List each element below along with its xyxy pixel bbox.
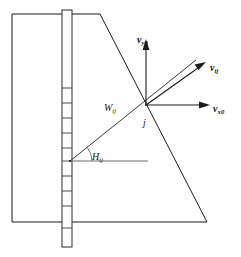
vector-vy0 (143, 39, 150, 105)
pile-column-body (62, 10, 72, 247)
label-vij-subscript: ij (214, 67, 218, 74)
label-angle: Hij (92, 147, 103, 163)
label-wedge-width: Wij (104, 98, 116, 114)
schematic-svg (0, 0, 241, 257)
label-vy0-subscript: y0 (141, 39, 148, 46)
label-velocity-vertical: vy0 (137, 30, 148, 46)
vector-vij-shaft (146, 68, 198, 105)
label-velocity-resultant: vij (210, 58, 218, 74)
failure-wedge-line (70, 60, 196, 161)
vector-vx0-arrowhead (199, 102, 210, 109)
soil-mass-outline (12, 14, 207, 222)
label-Hij-subscript: ij (99, 156, 103, 163)
vector-vij (146, 62, 206, 105)
label-node-j: j (143, 113, 146, 129)
node-j-point (145, 104, 147, 106)
wedge-origin-point (69, 160, 71, 162)
label-velocity-horizontal: vx0 (213, 99, 224, 115)
label-j-symbol: j (143, 117, 146, 128)
label-vx0-subscript: x0 (217, 108, 224, 115)
vector-vx0 (146, 102, 210, 109)
diagram-canvas: vy0 vij vx0 Wij j Hij (0, 0, 241, 257)
label-Wij-subscript: ij (112, 107, 116, 114)
